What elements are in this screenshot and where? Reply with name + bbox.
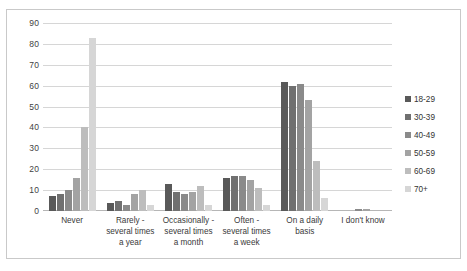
x-axis-category-label: On a dailybasis — [276, 215, 334, 248]
bar[interactable] — [321, 198, 328, 211]
x-axis-label-line: Often - — [219, 215, 275, 226]
legend-swatch-icon — [405, 114, 411, 120]
x-axis-category-label: Rarely -several timesa year — [101, 215, 159, 248]
y-axis-tick: 10 — [15, 186, 39, 195]
x-axis-label-line: a year — [102, 237, 158, 248]
x-axis-label-line: I don't know — [335, 215, 391, 226]
legend-label: 40-49 — [414, 131, 435, 140]
legend-item[interactable]: 40-49 — [405, 126, 457, 144]
x-axis-label-line: a month — [160, 237, 216, 248]
x-axis-label-line: Rarely - — [102, 215, 158, 226]
legend-item[interactable]: 70+ — [405, 180, 457, 198]
x-axis-label-line: several times — [102, 226, 158, 237]
bar[interactable] — [197, 186, 204, 211]
legend-item[interactable]: 18-29 — [405, 90, 457, 108]
bar-group — [159, 23, 217, 211]
legend-item[interactable]: 60-69 — [405, 162, 457, 180]
legend-swatch-icon — [405, 168, 411, 174]
bar-group — [43, 23, 101, 211]
plot-area: 9080706050403020100 NeverRarely -several… — [7, 10, 460, 258]
legend-label: 50-59 — [414, 149, 435, 158]
bar[interactable] — [281, 82, 288, 212]
bar[interactable] — [363, 209, 370, 211]
bar[interactable] — [181, 194, 188, 211]
bar[interactable] — [89, 38, 96, 211]
legend-swatch-icon — [405, 96, 411, 102]
bar[interactable] — [231, 176, 238, 212]
bar[interactable] — [131, 194, 138, 211]
y-axis-tick: 0 — [15, 207, 39, 216]
bar[interactable] — [355, 209, 362, 211]
bar[interactable] — [255, 188, 262, 211]
bar[interactable] — [139, 190, 146, 211]
legend-swatch-icon — [405, 150, 411, 156]
bar[interactable] — [173, 192, 180, 211]
bars-layer — [43, 23, 392, 211]
x-axis-label-line: Never — [44, 215, 100, 226]
bar[interactable] — [147, 205, 154, 211]
bar[interactable] — [57, 194, 64, 211]
bar[interactable] — [239, 176, 246, 212]
bar-group — [276, 23, 334, 211]
legend-item[interactable]: 50-59 — [405, 144, 457, 162]
y-axis: 9080706050403020100 — [15, 23, 39, 211]
legend-label: 70+ — [414, 185, 428, 194]
bar[interactable] — [107, 203, 114, 211]
bar[interactable] — [65, 190, 72, 211]
x-axis-label-line: basis — [277, 226, 333, 237]
bar[interactable] — [49, 196, 56, 211]
x-axis-category-label: Never — [43, 215, 101, 248]
legend-label: 60-69 — [414, 167, 435, 176]
y-axis-tick: 40 — [15, 123, 39, 132]
bar[interactable] — [115, 201, 122, 211]
y-axis-tick: 80 — [15, 39, 39, 48]
y-axis-tick: 30 — [15, 144, 39, 153]
bar[interactable] — [189, 192, 196, 211]
legend-swatch-icon — [405, 186, 411, 192]
bar[interactable] — [305, 100, 312, 211]
bar[interactable] — [247, 180, 254, 211]
bar-group — [101, 23, 159, 211]
bar[interactable] — [263, 205, 270, 211]
bar[interactable] — [297, 84, 304, 211]
bar[interactable] — [223, 178, 230, 211]
y-axis-tick: 70 — [15, 60, 39, 69]
x-axis-label-line: several times — [160, 226, 216, 237]
bar[interactable] — [123, 205, 130, 211]
x-axis-category-label: I don't know — [334, 215, 392, 248]
x-axis-label-line: a week — [219, 237, 275, 248]
x-axis-labels: NeverRarely -several timesa yearOccasion… — [43, 215, 392, 248]
bar[interactable] — [81, 127, 88, 211]
y-axis-tick: 50 — [15, 102, 39, 111]
bar[interactable] — [73, 178, 80, 211]
legend-label: 30-39 — [414, 113, 435, 122]
x-axis-category-label: Occasionally -several timesa month — [159, 215, 217, 248]
x-axis-label-line: Occasionally - — [160, 215, 216, 226]
legend-swatch-icon — [405, 132, 411, 138]
y-axis-tick: 20 — [15, 165, 39, 174]
bar-group — [334, 23, 392, 211]
chart-container: 9080706050403020100 NeverRarely -several… — [6, 9, 461, 259]
x-axis-category-label: Often -several timesa week — [218, 215, 276, 248]
y-axis-tick: 60 — [15, 81, 39, 90]
bar-group — [218, 23, 276, 211]
bar[interactable] — [289, 86, 296, 211]
y-axis-tick: 90 — [15, 19, 39, 28]
bar[interactable] — [165, 184, 172, 211]
x-axis-label-line: On a daily — [277, 215, 333, 226]
x-axis-label-line: several times — [219, 226, 275, 237]
legend-item[interactable]: 30-39 — [405, 108, 457, 126]
legend-label: 18-29 — [414, 95, 435, 104]
bar[interactable] — [313, 161, 320, 211]
chart-legend: 18-2930-3940-4950-5960-6970+ — [405, 90, 457, 198]
bar[interactable] — [205, 205, 212, 211]
